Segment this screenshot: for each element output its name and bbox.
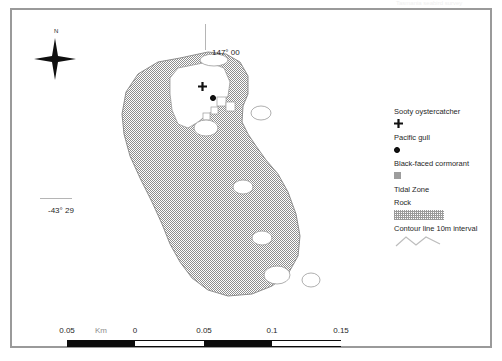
square-marker-icon	[394, 172, 401, 179]
scale-segment-3	[204, 340, 272, 347]
longitude-label: 147° 00	[212, 48, 240, 57]
scale-bar-graphic	[67, 340, 342, 347]
legend-item-pacific-gull: Pacific gull	[394, 132, 498, 156]
compass-rose: N	[32, 28, 84, 86]
tidal-step-4	[203, 113, 210, 120]
tidal-step-3	[211, 107, 218, 114]
legend-item-tidal-zone: Tidal Zone	[394, 184, 498, 195]
scale-unit-label: Km	[95, 326, 107, 335]
compass-north-label: N	[54, 28, 59, 34]
cross-marker-icon	[394, 119, 403, 128]
tidal-blob-south-c	[302, 273, 320, 287]
legend-label-sooty-oystercatcher: Sooty oystercatcher	[394, 106, 498, 117]
longitude-tick	[205, 24, 206, 50]
scale-bar-labels: 0.05 Km 0 0.05 0.1 0.15	[67, 326, 342, 338]
scale-bar: 0.05 Km 0 0.05 0.1 0.15	[67, 326, 342, 347]
sooty-oystercatcher-marker	[198, 77, 207, 86]
scale-tick-label-3: 0.1	[266, 326, 277, 335]
map-frame: N 147° 00 -43° 29 Sooty oystercatcher Pa…	[10, 8, 492, 348]
compass-star-icon	[32, 36, 78, 82]
rock-landmass	[122, 52, 300, 296]
scale-segment-1	[67, 340, 135, 347]
scale-tick-label-0: 0.05	[59, 326, 75, 335]
legend-item-contour-line: Contour line 10m interval	[394, 223, 498, 247]
legend-symbol-rock	[394, 208, 498, 221]
legend-symbol-black-faced-cormorant	[394, 169, 498, 182]
scale-tick-label-4: 0.15	[333, 326, 349, 335]
legend-label-pacific-gull: Pacific gull	[394, 132, 498, 143]
legend-label-contour-line: Contour line 10m interval	[394, 223, 498, 234]
tidal-blob-east	[251, 106, 271, 120]
tidal-blob-central	[194, 120, 218, 136]
legend-label-rock: Rock	[394, 197, 498, 208]
dot-marker-icon	[394, 147, 400, 153]
tidal-step-2	[226, 102, 235, 111]
legend: Sooty oystercatcher Pacific gull Black-f…	[394, 106, 498, 249]
scale-tick-label-2: 0.05	[196, 326, 212, 335]
scale-tick-label-1: 0	[133, 326, 137, 335]
legend-label-black-faced-cormorant: Black-faced cormorant	[394, 158, 498, 169]
tidal-blob-mid	[233, 180, 253, 194]
contour-line-icon	[394, 234, 442, 248]
tidal-zone-main	[170, 62, 230, 128]
legend-symbol-sooty-oystercatcher	[394, 117, 498, 130]
tidal-step-1	[217, 97, 226, 106]
legend-symbol-pacific-gull	[394, 143, 498, 156]
scale-segment-2	[135, 340, 204, 347]
tidal-blob-south-b	[264, 266, 290, 284]
rock-swatch-icon	[394, 210, 444, 220]
tidal-blob-south-a	[252, 231, 272, 245]
scale-segment-4	[272, 340, 341, 347]
cross-marker-icon	[198, 82, 207, 91]
pacific-gull-marker	[210, 95, 216, 101]
legend-item-rock: Rock	[394, 197, 498, 221]
latitude-tick	[40, 198, 72, 199]
legend-item-sooty-oystercatcher: Sooty oystercatcher	[394, 106, 498, 130]
legend-item-black-faced-cormorant: Black-faced cormorant	[394, 158, 498, 182]
page-header-ghost: Tasmania seabird survey	[396, 0, 462, 6]
legend-symbol-contour-line	[394, 234, 498, 247]
legend-label-tidal-zone: Tidal Zone	[394, 184, 498, 195]
latitude-label: -43° 29	[48, 206, 74, 215]
